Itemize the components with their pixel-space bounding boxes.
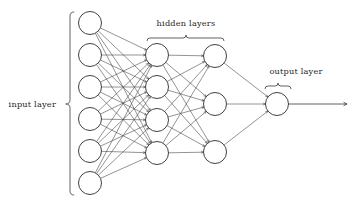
- edge-group-hidden2-to-output: [224, 63, 268, 145]
- connection-edge: [97, 96, 151, 173]
- input-node-6: [79, 172, 102, 195]
- input-node-5: [79, 140, 102, 163]
- node-group-output-layer: [266, 93, 289, 116]
- input-node-2: [79, 44, 102, 67]
- hidden-layers-brace: [147, 35, 224, 41]
- edge-group-input-to-hidden1: [95, 28, 151, 178]
- hidden-1-node-2: [146, 76, 169, 99]
- node-group-hidden-layer-1: [146, 44, 169, 165]
- connection-edge: [169, 55, 204, 56]
- connection-edge: [167, 61, 205, 81]
- hidden-1-node-4: [146, 142, 169, 165]
- edge-group-hidden1-to-hidden2: [163, 55, 209, 154]
- input-node-4: [79, 108, 102, 131]
- connection-edge: [101, 158, 147, 179]
- hidden-1-node-3: [146, 109, 169, 132]
- hidden-1-node-1: [146, 44, 169, 67]
- diagram-canvas: input layer hidden layers output layer: [0, 0, 357, 202]
- hidden-layers-label: hidden layers: [157, 18, 216, 28]
- input-layer-label: input layer: [9, 99, 56, 109]
- connection-edge: [168, 90, 204, 101]
- hidden-2-node-3: [204, 141, 227, 164]
- neural-network-diagram: input layer hidden layers output layer: [0, 0, 357, 202]
- output-node-1: [266, 93, 289, 116]
- connection-edge: [100, 28, 146, 50]
- output-layer-brace: [265, 83, 291, 89]
- hidden-2-node-1: [204, 45, 227, 68]
- connection-edge: [224, 111, 268, 145]
- input-node-1: [79, 12, 102, 35]
- output-arrow: [288, 102, 347, 105]
- node-group-hidden-layer-2: [204, 45, 227, 164]
- output-layer-label: output layer: [269, 66, 322, 76]
- hidden-2-node-2: [204, 93, 227, 116]
- brace-group: [66, 12, 291, 195]
- connection-edge: [163, 65, 209, 142]
- connection-edge: [224, 63, 268, 97]
- connection-edge: [163, 66, 209, 143]
- connection-edge: [169, 152, 204, 153]
- input-node-3: [79, 76, 102, 99]
- connection-edge: [97, 32, 151, 110]
- input-layer-brace: [66, 12, 74, 195]
- connection-edge: [168, 107, 204, 117]
